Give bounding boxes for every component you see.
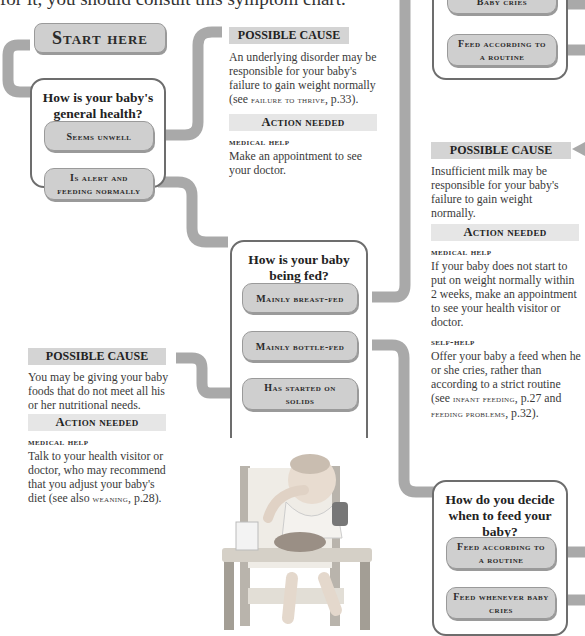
action-text-1: medical help Make an appointment to see … xyxy=(229,135,377,177)
question-title: How is your baby being fed? xyxy=(246,252,352,284)
reference-link-weaning[interactable]: weaning xyxy=(93,493,129,504)
option-feed-according-to-routine[interactable]: Feed according to a routine xyxy=(446,537,556,569)
possible-cause-header-2: POSSIBLE CAUSE xyxy=(431,142,571,159)
option-baby-cries-top[interactable]: Baby cries xyxy=(447,0,557,14)
intro-text: for it, you should consult this symptom … xyxy=(0,0,346,10)
start-here-label: Start here xyxy=(52,28,148,49)
option-label: Feed according to a routine xyxy=(454,37,550,63)
reference-link-infant-feeding[interactable]: infant feeding xyxy=(453,393,515,404)
question-title: How do you decide when to feed your baby… xyxy=(442,492,558,540)
option-started-on-solids[interactable]: Has started on solids xyxy=(242,378,358,410)
option-label: Seems unwell xyxy=(66,130,131,143)
option-feed-whenever-baby-cries[interactable]: Feed whenever baby cries xyxy=(446,587,556,619)
medical-help-label: medical help xyxy=(28,435,173,449)
option-label: Feed according to a routine xyxy=(453,540,549,566)
baby-in-highchair-photo xyxy=(212,438,382,636)
reference-link-feeding-problems[interactable]: feeding problems xyxy=(431,408,505,419)
action-needed-header-2: Action needed xyxy=(431,224,579,241)
option-feed-routine-top[interactable]: Feed according to a routine xyxy=(447,34,557,66)
possible-cause-text-1: An underlying disorder may be responsibl… xyxy=(229,50,377,107)
possible-cause-text-3: You may be giving your baby foods that d… xyxy=(28,370,173,412)
action-text-2: medical help If your baby does not start… xyxy=(431,245,581,421)
possible-cause-text-2: Insufficient milk may be responsible for… xyxy=(431,164,571,220)
option-mainly-bottle-fed[interactable]: Mainly bottle-fed xyxy=(242,331,358,361)
option-label: Mainly bottle-fed xyxy=(256,340,344,353)
action-needed-header-1: Action needed xyxy=(229,114,377,131)
question-title: How is your baby's general health? xyxy=(38,90,158,122)
action-text-3: medical help Talk to your health visitor… xyxy=(28,435,173,506)
option-label: Feed whenever baby cries xyxy=(453,590,549,616)
option-label: Is alert and feeding normally xyxy=(51,171,147,197)
possible-cause-header-3: POSSIBLE CAUSE xyxy=(28,348,166,365)
start-here-button[interactable]: Start here xyxy=(34,23,166,53)
medical-help-label: medical help xyxy=(431,245,581,259)
option-label: Mainly breast-fed xyxy=(256,292,344,305)
option-seems-unwell[interactable]: Seems unwell xyxy=(44,121,154,151)
action-needed-header-3: Action needed xyxy=(28,414,166,431)
option-label: Baby cries xyxy=(477,0,527,8)
option-mainly-breast-fed[interactable]: Mainly breast-fed xyxy=(242,283,358,313)
possible-cause-header-1: POSSIBLE CAUSE xyxy=(229,27,349,44)
reference-link-failure-to-thrive[interactable]: failure to thrive xyxy=(251,94,325,105)
medical-help-label: medical help xyxy=(229,135,377,149)
option-alert-feeding-normally[interactable]: Is alert and feeding normally xyxy=(44,168,154,200)
self-help-label: self-help xyxy=(431,335,581,349)
option-label: Has started on solids xyxy=(249,381,351,407)
